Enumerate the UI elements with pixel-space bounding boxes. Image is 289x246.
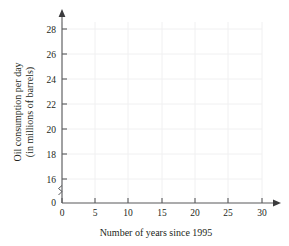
- y-tick-label-18: 18: [47, 150, 57, 160]
- y-tick-label-22: 22: [47, 100, 57, 110]
- x-axis-tick-labels: 0 5 10 15 20 25 30: [60, 208, 267, 218]
- x-tick-label-30: 30: [257, 208, 267, 218]
- x-axis-arrow-icon: [273, 200, 281, 207]
- y-axis-arrow-icon: [59, 9, 66, 17]
- y-tick-label-0: 0: [51, 198, 56, 208]
- coordinate-grid-chart: 28 26 24 22 20 18 16 0 0 5 10 15 20 25: [0, 0, 289, 246]
- x-tick-label-0: 0: [60, 208, 65, 218]
- x-tick-label-25: 25: [223, 208, 233, 218]
- chart-container: 28 26 24 22 20 18 16 0 0 5 10 15 20 25: [0, 0, 289, 246]
- y-axis-tick-labels: 28 26 24 22 20 18 16 0: [47, 25, 57, 209]
- y-tick-label-24: 24: [47, 75, 57, 85]
- y-axis-title-line-1: Oil consumption per day: [12, 62, 23, 161]
- y-tick-label-20: 20: [47, 125, 57, 135]
- y-tick-label-26: 26: [47, 50, 57, 60]
- x-tick-label-20: 20: [190, 208, 200, 218]
- y-tick-label-16: 16: [47, 175, 57, 185]
- x-tick-label-15: 15: [157, 208, 167, 218]
- x-tick-label-5: 5: [93, 208, 98, 218]
- x-tick-label-10: 10: [123, 208, 133, 218]
- y-axis-title-line-2: (in millions of barrels): [24, 67, 36, 157]
- x-axis-title: Number of years since 1995: [100, 227, 213, 238]
- y-tick-label-28: 28: [47, 25, 57, 35]
